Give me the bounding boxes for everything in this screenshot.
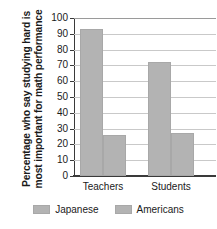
plot-inner: 0102030405060708090100 <box>74 18 210 176</box>
y-axis-tick-label: 20 <box>57 139 68 149</box>
y-axis-tick <box>70 176 74 177</box>
gridline <box>74 18 216 19</box>
y-axis-tick <box>70 34 74 35</box>
y-axis-tick-label: 30 <box>57 124 68 134</box>
plot-area: 0102030405060708090100 <box>74 18 210 176</box>
legend-label-americans: Americans <box>137 204 184 215</box>
y-axis-tick <box>70 65 74 66</box>
y-axis-tick-label: 100 <box>51 13 68 23</box>
y-axis-tick <box>70 18 74 19</box>
y-axis-tick <box>70 144 74 145</box>
y-axis-tick <box>70 97 74 98</box>
x-axis-tick-label-students: Students <box>131 181 211 192</box>
bar-fill <box>80 29 103 176</box>
y-axis-tick <box>70 160 74 161</box>
y-axis-tick <box>70 113 74 114</box>
bar-fill <box>171 133 194 176</box>
chart-legend: Japanese Americans <box>0 204 217 215</box>
bar-americans-students <box>171 133 194 176</box>
legend-swatch-japanese-icon <box>33 205 50 214</box>
bar-japanese-teachers <box>80 29 103 176</box>
bar-japanese-students <box>148 62 171 176</box>
bar-fill <box>148 62 171 176</box>
legend-swatch-americans-icon <box>115 205 132 214</box>
bar-americans-teachers <box>103 135 126 176</box>
y-axis-tick <box>70 50 74 51</box>
y-axis-tick-label: 50 <box>57 92 68 102</box>
y-axis-tick-label: 0 <box>62 171 68 181</box>
y-axis-tick <box>70 129 74 130</box>
legend-entry-americans: Americans <box>115 204 184 215</box>
y-axis-tick-label: 40 <box>57 108 68 118</box>
y-axis-tick <box>70 81 74 82</box>
bar-fill <box>103 135 126 176</box>
y-axis-tick-label: 10 <box>57 155 68 165</box>
y-axis-tick-label: 70 <box>57 60 68 70</box>
y-axis-tick-label: 60 <box>57 76 68 86</box>
y-axis-title: Percentage who say studying hard is most… <box>17 4 49 194</box>
y-axis-tick-label: 80 <box>57 45 68 55</box>
legend-entry-japanese: Japanese <box>33 204 98 215</box>
bar-chart-figure: Percentage who say studying hard is most… <box>0 0 217 229</box>
y-axis-tick-label: 90 <box>57 29 68 39</box>
y-axis-title-line-2: most important for math performance <box>33 10 46 189</box>
legend-label-japanese: Japanese <box>55 204 98 215</box>
y-axis-title-line-1: Percentage who say studying hard is <box>21 11 34 187</box>
